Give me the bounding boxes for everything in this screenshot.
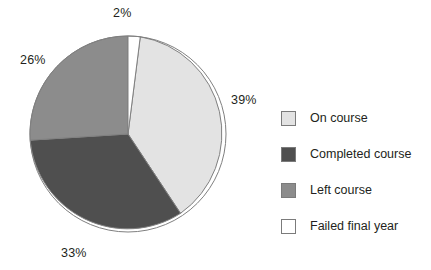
- legend-item-failed-final-year[interactable]: Failed final year: [281, 208, 429, 244]
- chart-legend: On course Completed course Left course F…: [281, 100, 429, 244]
- slice-value-label-failed-final-year: 2%: [113, 7, 131, 20]
- legend-item-left-course[interactable]: Left course: [281, 172, 429, 208]
- legend-item-on-course[interactable]: On course: [281, 100, 429, 136]
- legend-swatch-left-course: [281, 183, 296, 198]
- legend-label-failed-final-year: Failed final year: [310, 220, 398, 233]
- legend-swatch-completed-course: [281, 147, 296, 162]
- slice-value-label-completed-course: 33%: [61, 247, 87, 260]
- pie-slice-left-course[interactable]: [30, 36, 128, 140]
- legend-label-on-course: On course: [310, 112, 368, 125]
- legend-label-completed-course: Completed course: [310, 148, 411, 161]
- legend-item-completed-course[interactable]: Completed course: [281, 136, 429, 172]
- slice-value-label-left-course: 26%: [20, 54, 46, 67]
- pie-chart: 2% 26% 39% 33% On course Completed cours…: [0, 0, 431, 270]
- legend-swatch-on-course: [281, 111, 296, 126]
- legend-label-left-course: Left course: [310, 184, 372, 197]
- slice-value-label-on-course: 39%: [231, 94, 257, 107]
- legend-swatch-failed-final-year: [281, 219, 296, 234]
